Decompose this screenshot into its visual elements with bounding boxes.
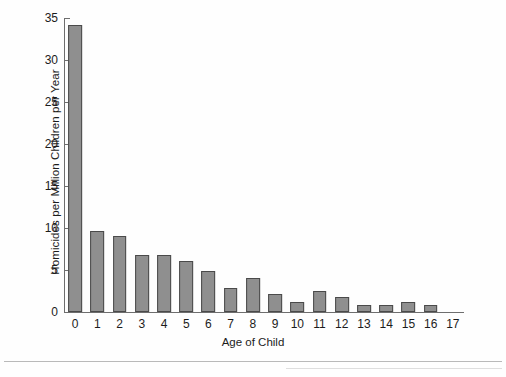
page-divider-line-faint [286, 368, 502, 369]
x-tick-label: 17 [446, 317, 459, 331]
plot-area: 05101520253035 0123456789101112131415161… [64, 18, 464, 313]
bar-slot [442, 18, 464, 312]
y-tick: 0 [64, 312, 70, 313]
y-tick-label: 5 [51, 263, 58, 277]
x-tick-label: 7 [227, 317, 234, 331]
x-tick-label: 11 [313, 317, 325, 331]
bar-series [64, 18, 464, 312]
bar [268, 294, 282, 312]
bar [113, 236, 127, 312]
y-axis-label: Homicides per Million Children per Year [49, 22, 61, 322]
bar [313, 291, 327, 312]
x-tick-label: 5 [183, 317, 190, 331]
x-tick-label: 10 [291, 317, 304, 331]
bar-slot [286, 18, 308, 312]
x-tick-label: 15 [402, 317, 415, 331]
bar [135, 255, 149, 312]
x-tick-label: 2 [116, 317, 123, 331]
bar-slot [175, 18, 197, 312]
bar [157, 255, 171, 312]
bar-slot [64, 18, 86, 312]
bar-slot [397, 18, 419, 312]
bar-slot [197, 18, 219, 312]
y-tick-label: 35 [45, 11, 58, 25]
x-tick-label: 4 [161, 317, 168, 331]
x-tick-label: 3 [138, 317, 145, 331]
x-tick-label: 8 [250, 317, 257, 331]
y-tick-label: 30 [45, 53, 58, 67]
bar [246, 278, 260, 312]
bar-slot [308, 18, 330, 312]
y-tick-label: 10 [45, 221, 58, 235]
y-tick-label: 0 [51, 305, 58, 319]
bar-slot [264, 18, 286, 312]
y-tick-label: 20 [45, 137, 58, 151]
bar [224, 288, 238, 312]
x-axis-line [64, 312, 464, 313]
y-tick-mark [65, 312, 70, 313]
bar [402, 302, 416, 312]
bar [290, 302, 304, 312]
x-tick-label: 6 [205, 317, 212, 331]
bar-slot [375, 18, 397, 312]
y-tick-label: 25 [45, 95, 58, 109]
page-divider-line [4, 361, 502, 362]
bar [335, 297, 349, 312]
x-tick-label: 14 [380, 317, 393, 331]
x-tick-label: 12 [335, 317, 348, 331]
x-tick-label: 16 [424, 317, 437, 331]
bar [202, 271, 216, 312]
bar [424, 305, 438, 312]
bar [379, 305, 393, 312]
y-tick-label: 15 [45, 179, 58, 193]
x-tick-label: 9 [272, 317, 279, 331]
bar-slot [131, 18, 153, 312]
bar-slot [220, 18, 242, 312]
chart-figure: Homicides per Million Children per Year … [0, 0, 506, 377]
bar-slot [86, 18, 108, 312]
bar-slot [353, 18, 375, 312]
bar-slot [153, 18, 175, 312]
bar-slot [420, 18, 442, 312]
x-tick-label: 1 [94, 317, 101, 331]
x-tick-label: 13 [357, 317, 370, 331]
bar-slot [242, 18, 264, 312]
bar-slot [331, 18, 353, 312]
bar [357, 305, 371, 312]
bar [68, 25, 82, 312]
bar [90, 231, 104, 312]
x-tick-label: 0 [72, 317, 79, 331]
bar-slot [108, 18, 130, 312]
x-axis-label: Age of Child [0, 336, 506, 348]
bar [179, 261, 193, 312]
